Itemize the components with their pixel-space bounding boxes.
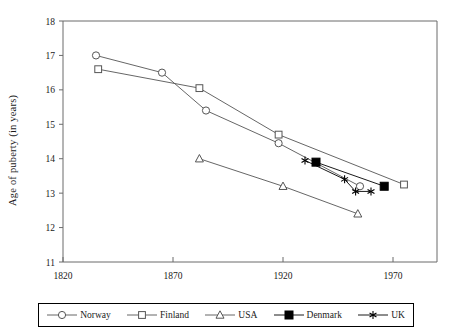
series-line bbox=[199, 159, 357, 214]
data-point-marker bbox=[302, 156, 309, 164]
data-point-marker bbox=[312, 158, 320, 166]
asterisk-marker-icon bbox=[358, 309, 388, 321]
data-point-marker bbox=[356, 183, 363, 190]
x-tick-label: 1820 bbox=[54, 271, 73, 281]
line-chart-plot: 11121314151617181820187019201970 bbox=[0, 0, 452, 335]
chart-figure: Age of puberty (in years) 11121314151617… bbox=[0, 0, 452, 335]
data-point-marker bbox=[202, 107, 209, 114]
data-point-marker bbox=[158, 69, 165, 76]
legend-item-label: Denmark bbox=[306, 310, 342, 320]
y-axis-ticks: 1112131415161718 bbox=[46, 17, 64, 268]
data-point-marker bbox=[95, 66, 102, 73]
data-point-marker bbox=[92, 52, 99, 59]
x-tick-label: 1970 bbox=[384, 271, 403, 281]
data-point-marker bbox=[139, 312, 146, 319]
y-tick-label: 14 bbox=[46, 154, 56, 164]
legend-item-label: Norway bbox=[79, 310, 111, 320]
data-point-marker bbox=[275, 131, 282, 138]
data-point-marker bbox=[216, 311, 224, 318]
y-tick-label: 13 bbox=[46, 189, 56, 199]
legend-item-norway[interactable]: Norway bbox=[47, 309, 111, 321]
chart-series-usa bbox=[195, 155, 361, 217]
y-tick-label: 17 bbox=[46, 51, 56, 61]
data-point-marker bbox=[195, 155, 203, 162]
y-tick-label: 12 bbox=[46, 223, 56, 233]
legend-item-finland[interactable]: Finland bbox=[127, 309, 189, 321]
data-point-marker bbox=[275, 140, 282, 147]
y-tick-label: 15 bbox=[46, 120, 56, 130]
x-tick-label: 1920 bbox=[274, 271, 293, 281]
data-point-marker bbox=[59, 311, 66, 318]
data-point-marker bbox=[196, 85, 203, 92]
data-point-marker bbox=[285, 311, 293, 319]
data-point-marker bbox=[380, 182, 388, 190]
x-axis-ticks: 1820187019201970 bbox=[54, 257, 403, 281]
legend-item-uk[interactable]: UK bbox=[358, 309, 405, 321]
series-line bbox=[98, 69, 404, 184]
data-point-marker bbox=[354, 210, 362, 217]
chart-series-finland bbox=[95, 66, 408, 188]
data-point-marker bbox=[401, 181, 408, 188]
x-tick-label: 1870 bbox=[164, 271, 183, 281]
square-filled-marker-icon bbox=[274, 309, 304, 321]
legend-item-label: USA bbox=[237, 310, 257, 320]
square-open-marker-icon bbox=[127, 309, 157, 321]
legend-item-label: UK bbox=[390, 310, 405, 320]
legend-item-label: Finland bbox=[159, 310, 189, 320]
y-tick-label: 11 bbox=[46, 258, 55, 268]
chart-axes bbox=[63, 21, 437, 262]
triangle-open-marker-icon bbox=[205, 309, 235, 321]
y-tick-label: 16 bbox=[46, 85, 56, 95]
legend-item-usa[interactable]: USA bbox=[205, 309, 257, 321]
legend-item-denmark[interactable]: Denmark bbox=[274, 309, 342, 321]
series-line bbox=[316, 162, 384, 186]
circle-open-marker-icon bbox=[47, 309, 77, 321]
y-tick-label: 18 bbox=[46, 17, 56, 27]
chart-legend: NorwayFinlandUSADenmarkUK bbox=[38, 303, 414, 327]
